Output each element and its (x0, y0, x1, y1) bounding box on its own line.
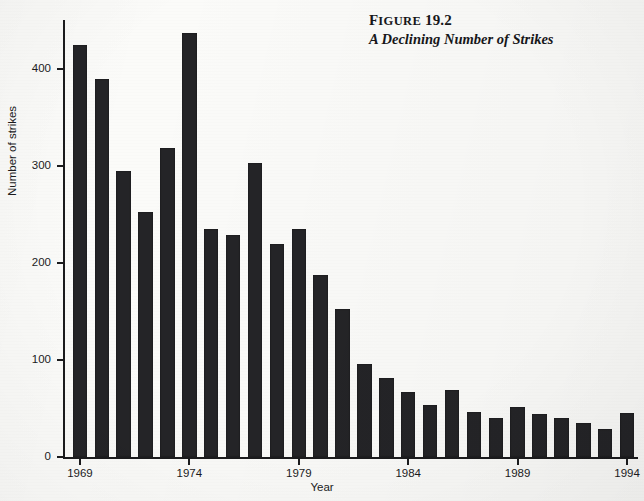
x-tick-label-1989: 1989 (505, 467, 531, 479)
x-tick-labels: 196919741979198419891994 (0, 0, 644, 501)
x-tick-label-1984: 1984 (395, 467, 421, 479)
x-tick-label-1974: 1974 (177, 467, 203, 479)
x-tick-label-1979: 1979 (286, 467, 312, 479)
x-tick-label-1994: 1994 (614, 467, 640, 479)
figure-page: FIGURE 19.2 A Declining Number of Strike… (0, 0, 644, 501)
x-tick-label-1969: 1969 (67, 467, 93, 479)
